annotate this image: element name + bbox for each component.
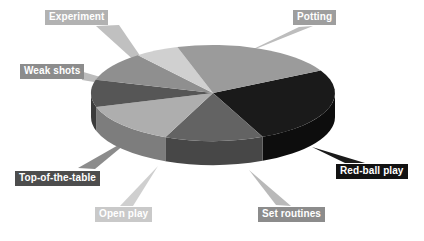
pie-label-weak-shots: Weak shots bbox=[20, 64, 84, 79]
pie-label-top-of-the-table: Top-of-the-table bbox=[15, 171, 100, 186]
pie-label-red-ball-play: Red-ball play bbox=[336, 164, 408, 179]
leader-line-set-routines bbox=[249, 170, 291, 206]
pie-body bbox=[91, 45, 335, 165]
leader-line-open-play bbox=[120, 166, 158, 206]
pie-extrusion-set-routines bbox=[165, 137, 262, 165]
pie-label-open-play: Open play bbox=[95, 207, 152, 222]
pie-top-face bbox=[91, 45, 335, 141]
pie-label-set-routines: Set routines bbox=[258, 207, 325, 222]
pie-chart-figure: Experiment Weak shots Top-of-the-table O… bbox=[0, 0, 424, 241]
pie-label-potting: Potting bbox=[293, 10, 336, 25]
pie-label-experiment: Experiment bbox=[45, 10, 108, 25]
leader-line-red-ball-play bbox=[312, 147, 365, 163]
pie-chart-svg bbox=[0, 0, 424, 241]
